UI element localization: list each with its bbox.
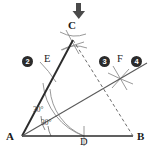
- step-marker-2: 2: [22, 56, 33, 67]
- point-label-D: D: [80, 137, 88, 148]
- step-marker-3: 3: [99, 56, 110, 67]
- vertex-label-B: B: [137, 131, 144, 142]
- geometry-figure: [0, 0, 160, 158]
- point-label-E: E: [44, 54, 50, 65]
- vertex-label-C: C: [68, 20, 76, 31]
- down-arrow-icon: [73, 3, 86, 19]
- step-marker-4: 4: [131, 56, 142, 67]
- angle-label-FAB: 30°: [41, 119, 52, 127]
- compass-arc-inner: [50, 89, 84, 136]
- angle-label-CAF: 30°: [33, 106, 44, 114]
- angle-arc-FAB: [48, 126, 51, 136]
- vertex-label-A: A: [6, 131, 14, 142]
- construction-marks-group: [40, 30, 133, 146]
- segment-CB: [73, 40, 133, 136]
- arc-tick-at-E-icon: [40, 62, 56, 82]
- arc-cross-at-C-icon: [60, 30, 87, 54]
- compass-arc-from-A: [43, 83, 84, 136]
- point-label-F: F: [117, 54, 123, 65]
